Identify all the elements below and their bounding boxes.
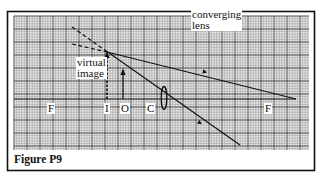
ray-diagram (0, 0, 325, 178)
virtual-image-label: virtual image (76, 57, 107, 79)
virtual-image-label-line2: image (77, 68, 106, 79)
graph-paper-grid (14, 16, 309, 150)
converging-lens-label-line2: lens (192, 20, 241, 31)
focal-point-right-label: F (264, 103, 272, 114)
focal-point-left-label: F (47, 103, 55, 114)
image-point-label: I (104, 103, 110, 114)
converging-lens-label: converging lens (191, 9, 242, 31)
figure-p9: converging lens virtual image F I O C F … (0, 0, 325, 178)
object-point-label: O (120, 103, 130, 114)
figure-caption: Figure P9 (14, 153, 62, 165)
lens-center-label: C (146, 103, 155, 114)
